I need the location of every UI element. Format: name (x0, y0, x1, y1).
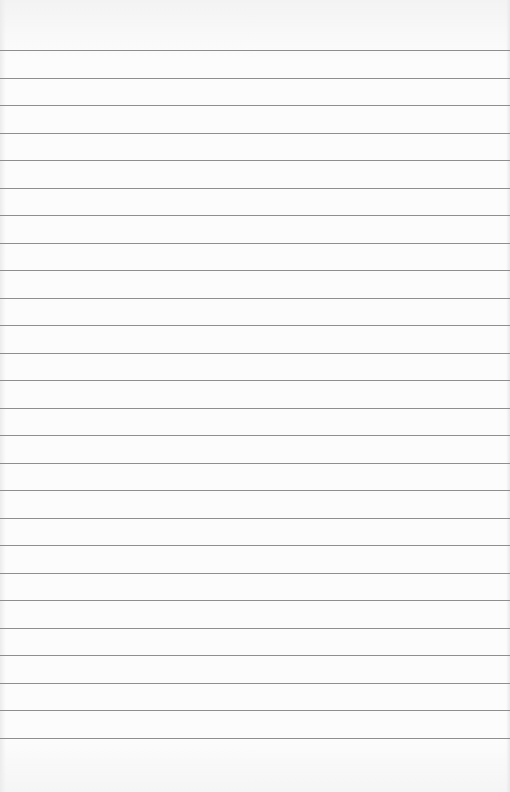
ruled-line (0, 270, 510, 271)
ruled-line (0, 188, 510, 189)
ruled-line (0, 325, 510, 326)
ruled-line (0, 78, 510, 79)
paper-right-edge-shadow (506, 0, 510, 792)
ruled-line (0, 160, 510, 161)
ruled-line (0, 683, 510, 684)
ruled-line (0, 298, 510, 299)
ruled-line (0, 655, 510, 656)
ruled-line (0, 380, 510, 381)
ruled-line (0, 573, 510, 574)
ruled-line (0, 133, 510, 134)
ruled-line (0, 353, 510, 354)
ruled-line (0, 600, 510, 601)
ruled-line (0, 215, 510, 216)
ruled-line (0, 463, 510, 464)
ruled-line (0, 490, 510, 491)
ruled-line (0, 518, 510, 519)
ruled-line (0, 435, 510, 436)
ruled-line (0, 50, 510, 51)
ruled-line (0, 243, 510, 244)
ruled-line (0, 408, 510, 409)
ruled-line (0, 545, 510, 546)
lined-paper-sheet (0, 0, 510, 792)
paper-left-edge-shadow (0, 0, 6, 792)
ruled-line (0, 738, 510, 739)
ruled-line (0, 710, 510, 711)
ruled-line (0, 105, 510, 106)
ruled-line (0, 628, 510, 629)
